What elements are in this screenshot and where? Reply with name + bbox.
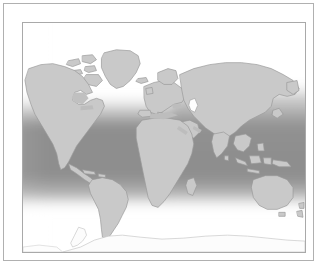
map-plot-frame [22,22,306,253]
raster-texture-overlay [23,23,305,252]
screenshot-root [0,0,328,274]
world-map-canvas[interactable] [23,23,305,252]
world-map-svg [23,23,305,252]
